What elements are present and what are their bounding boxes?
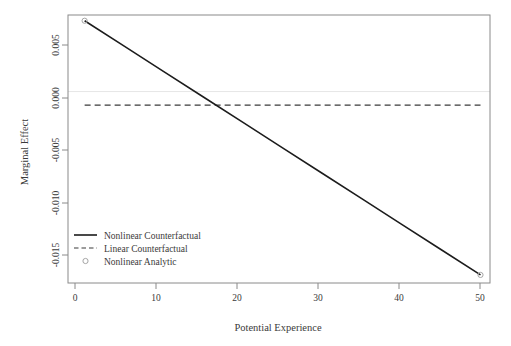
y-tick-label: -0.015 [51, 242, 61, 267]
y-axis-title: Marginal Effect [19, 119, 30, 185]
marginal-effect-line-chart: 0.005 0.000 -0.005 -0.010 -0.015 0 10 20… [0, 0, 511, 346]
x-tick-label: 40 [394, 293, 404, 303]
x-tick-label: 30 [313, 293, 323, 303]
y-tick-label: 0.005 [51, 34, 61, 56]
legend-label-linear-counterfactual: Linear Counterfactual [104, 244, 188, 254]
chart-figure: 0.005 0.000 -0.005 -0.010 -0.015 0 10 20… [0, 0, 511, 346]
y-tick-label: -0.010 [51, 190, 61, 215]
x-axis-title: Potential Experience [234, 322, 322, 333]
legend-label-nonlinear-counterfactual: Nonlinear Counterfactual [104, 231, 201, 241]
x-tick-label: 10 [151, 293, 161, 303]
x-tick-label: 50 [475, 293, 485, 303]
y-tick-label: -0.005 [51, 137, 61, 162]
x-tick-label: 0 [73, 293, 78, 303]
legend-label-nonlinear-analytic: Nonlinear Analytic [104, 257, 177, 267]
y-tick-label: 0.000 [51, 87, 61, 109]
x-tick-label: 20 [232, 293, 242, 303]
